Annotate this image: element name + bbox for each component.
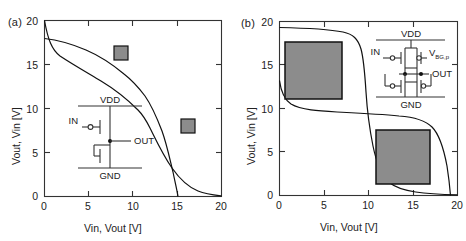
panel-b: (b) 20 15 10 5 0 0 5 10 15 20 Vin, Vout …	[233, 0, 466, 241]
panel-a-noise-margin-box-high	[114, 46, 128, 60]
panel-a-vdd-label: VDD	[100, 94, 120, 105]
panel-a: (a) 20 15 10 5 0 0 5 10 15 20 Vin, Vout …	[0, 0, 233, 241]
panel-a-gnd-label: GND	[99, 170, 120, 181]
figure-root: (a) 20 15 10 5 0 0 5 10 15 20 Vin, Vout …	[0, 0, 466, 241]
panel-b-out-label: OUT	[432, 68, 452, 79]
panel-a-curve-vtc	[45, 21, 222, 197]
panel-a-noise-margin-box-low	[181, 119, 195, 133]
panel-b-vdd-label: VDD	[401, 28, 421, 39]
panel-b-vbg-label: VBG,p	[429, 47, 450, 60]
panel-a-circuit-inset	[78, 106, 142, 168]
panel-a-out-label: OUT	[134, 135, 154, 146]
panel-b-plot: VDD GND IN OUT VBG,p	[233, 0, 466, 241]
panel-a-axes-frame	[45, 21, 222, 197]
panel-a-in-label: IN	[69, 115, 79, 126]
panel-b-vbg-subscript: BG,p	[435, 54, 449, 60]
panel-a-ticks	[45, 21, 222, 197]
panel-b-noise-margin-box-low	[376, 130, 430, 184]
panel-b-gnd-label: GND	[400, 99, 421, 110]
panel-b-noise-margin-box-high	[285, 42, 342, 99]
panel-b-in-label: IN	[371, 46, 381, 57]
panel-a-plot: VDD GND IN OUT	[0, 0, 233, 241]
